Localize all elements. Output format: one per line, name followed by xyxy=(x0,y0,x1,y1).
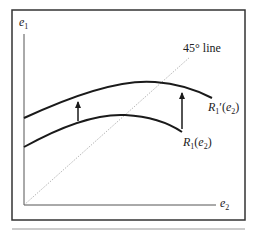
x-axis-label: e2 xyxy=(220,196,229,212)
curve-r1 xyxy=(24,115,182,147)
curve-r1-label: R1(e2) xyxy=(183,135,212,151)
curve-r1-prime xyxy=(24,82,212,118)
line-45 xyxy=(24,57,190,205)
line-45-label: 45° line xyxy=(183,41,221,56)
y-axis-label: e1 xyxy=(19,15,28,31)
curve-r1-prime-label: R1′(e2) xyxy=(208,100,239,116)
